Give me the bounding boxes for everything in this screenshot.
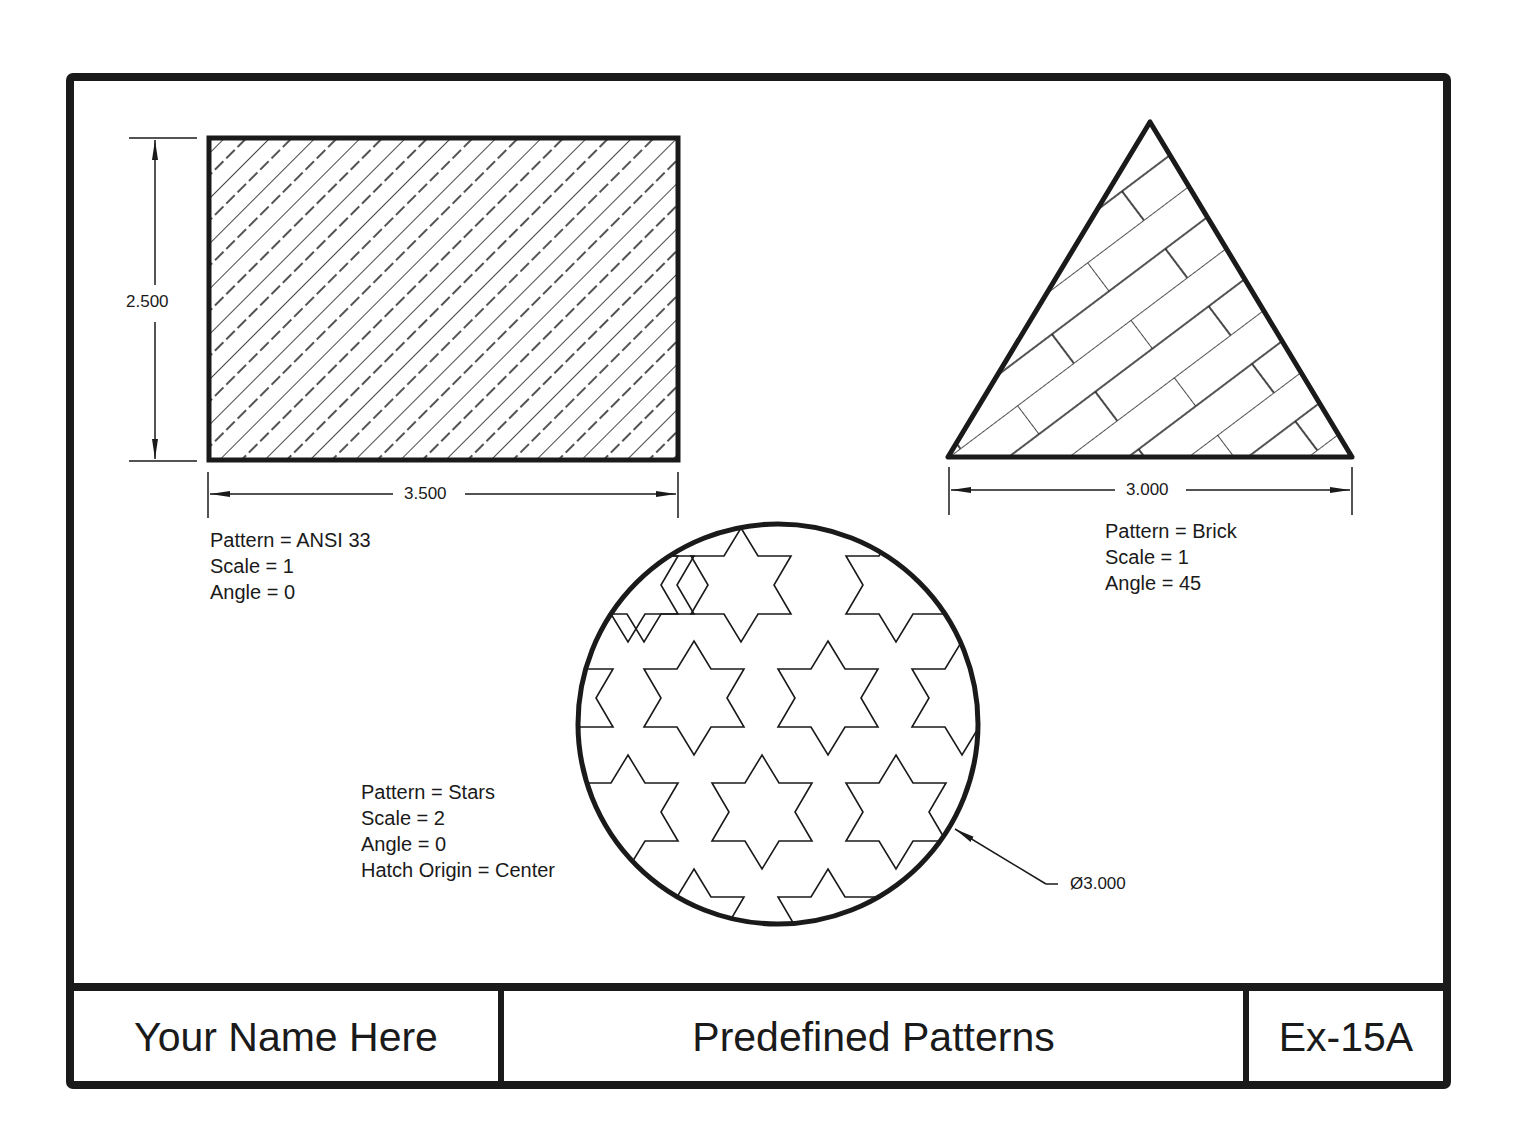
circle-note-pattern: Pattern = Stars <box>361 779 555 805</box>
tri-note-scale: Scale = 1 <box>1105 544 1237 570</box>
tri-note-pattern: Pattern = Brick <box>1105 518 1237 544</box>
title-block-title: Predefined Patterns <box>504 991 1243 1083</box>
triangle-base-dim-text: 3.000 <box>1120 480 1175 500</box>
circle-note-angle: Angle = 0 <box>361 831 555 857</box>
title-block-sheet-id: Ex-15A <box>1249 991 1443 1083</box>
rect-width-dim-text: 3.500 <box>398 484 453 504</box>
hatched-circle <box>513 524 1012 983</box>
circle-diameter-dim-text: Ø3.000 <box>1070 874 1126 894</box>
title-block-name: Your Name Here <box>74 991 498 1083</box>
rectangle-notes: Pattern = ANSI 33 Scale = 1 Angle = 0 <box>210 527 371 605</box>
tri-note-angle: Angle = 45 <box>1105 570 1237 596</box>
triangle-notes: Pattern = Brick Scale = 1 Angle = 45 <box>1105 518 1237 596</box>
rect-height-dim-text: 2.500 <box>122 292 173 312</box>
hatched-rectangle <box>209 138 678 460</box>
rect-note-angle: Angle = 0 <box>210 579 371 605</box>
circle-note-scale: Scale = 2 <box>361 805 555 831</box>
rect-note-pattern: Pattern = ANSI 33 <box>210 527 371 553</box>
hatched-triangle <box>940 115 1360 465</box>
circle-notes: Pattern = Stars Scale = 2 Angle = 0 Hatc… <box>361 779 555 883</box>
rect-note-scale: Scale = 1 <box>210 553 371 579</box>
circle-diameter-leader <box>955 829 1058 884</box>
circle-note-origin: Hatch Origin = Center <box>361 857 555 883</box>
